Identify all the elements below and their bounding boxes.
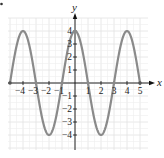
svg-text:2: 2: [99, 86, 104, 96]
cosine-graph: −4−3−2−1123454321−1−2−3−4 x y: [0, 0, 164, 158]
svg-text:2: 2: [67, 52, 72, 62]
svg-text:4: 4: [67, 26, 72, 36]
svg-text:1: 1: [67, 65, 72, 75]
svg-text:−1: −1: [62, 91, 72, 101]
bullet-marker: [0, 3, 3, 6]
svg-text:−2: −2: [62, 104, 72, 114]
y-axis-label: y: [71, 1, 77, 13]
svg-text:−3: −3: [28, 86, 38, 96]
svg-text:−2: −2: [41, 86, 51, 96]
svg-text:4: 4: [125, 86, 130, 96]
svg-text:1: 1: [86, 86, 91, 96]
svg-text:−3: −3: [62, 117, 72, 127]
x-axis-label: x: [156, 76, 162, 88]
svg-text:−4: −4: [15, 86, 25, 96]
svg-text:5: 5: [138, 86, 143, 96]
svg-text:3: 3: [67, 39, 72, 49]
svg-text:3: 3: [112, 86, 117, 96]
svg-text:−4: −4: [62, 130, 72, 140]
